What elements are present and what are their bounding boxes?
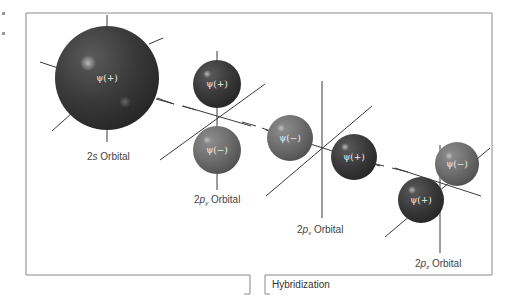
margin-mark	[2, 12, 5, 15]
margin-mark	[2, 32, 5, 35]
caption-2s-orbital: 2s Orbital	[87, 151, 130, 162]
caption-suffix: Orbital	[311, 224, 343, 235]
orbital-diagram: ψ(+) ψ(+) ψ(−) ψ(−) ψ(+) ψ(−) ψ(+) 2s Or…	[0, 0, 508, 296]
lobe-label-2s-positive: ψ(+)	[96, 73, 118, 83]
caption-2px-orbital: 2px Orbital	[297, 224, 343, 236]
caption-2py-orbital: 2py Orbital	[194, 194, 240, 206]
hybridization-label: Hybridization	[272, 279, 330, 290]
lobe-label-2px-negative: ψ(−)	[279, 133, 301, 143]
lobe-label-2py-positive: ψ(+)	[206, 79, 228, 89]
caption-2pz-orbital: 2pz Orbital	[415, 258, 461, 270]
caption-suffix: Orbital	[208, 194, 240, 205]
lobe-label-2pz-positive: ψ(+)	[410, 195, 432, 205]
caption-suffix: Orbital	[98, 151, 130, 162]
lobe-label-2py-negative: ψ(−)	[206, 145, 228, 155]
orbital-diagram-canvas	[0, 0, 508, 296]
lobe-label-2px-positive: ψ(+)	[343, 152, 365, 162]
caption-suffix: Orbital	[429, 258, 461, 269]
lobe-label-2pz-negative: ψ(−)	[446, 159, 468, 169]
